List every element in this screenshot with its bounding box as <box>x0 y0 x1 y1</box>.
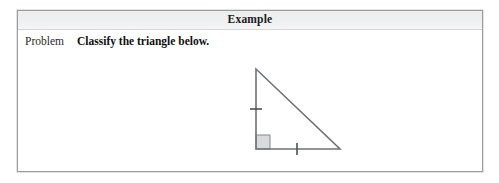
right-angle-marker-icon <box>256 135 270 149</box>
figure-area <box>18 52 482 170</box>
screenshot-root: Example Problem Classify the triangle be… <box>0 0 499 183</box>
problem-statement: Classify the triangle below. <box>77 36 209 48</box>
problem-label: Problem <box>25 36 64 48</box>
example-box: Example Problem Classify the triangle be… <box>17 10 483 172</box>
example-body: Problem Classify the triangle below. <box>18 30 482 171</box>
right-triangle-figure <box>207 52 367 164</box>
example-header: Example <box>18 11 482 30</box>
problem-row: Problem Classify the triangle below. <box>25 36 209 48</box>
example-title: Example <box>228 14 273 26</box>
